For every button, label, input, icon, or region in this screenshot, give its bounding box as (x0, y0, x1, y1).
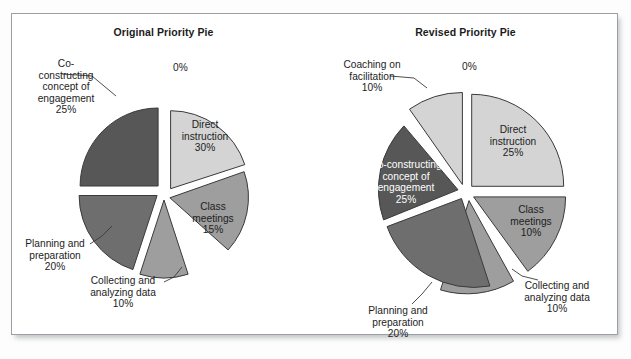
leader-line-planning (412, 282, 432, 304)
label-line: 10% (326, 82, 418, 94)
label-line: Collecting and (510, 280, 604, 292)
label-line: Planning and (354, 305, 442, 317)
label-line: 25% (22, 104, 110, 116)
label-line: analyzing data (78, 287, 168, 299)
zero-percent-label-original: 0% (173, 62, 188, 73)
label-line: instruction (476, 136, 550, 148)
label-line: preparation (354, 317, 442, 329)
figure-frame: Original Priority Pie (11, 13, 618, 335)
label-line: facilitation (326, 71, 418, 83)
label-line: 15% (182, 224, 244, 236)
label-line: Class (498, 204, 564, 216)
figure-root: Original Priority Pie (0, 0, 631, 359)
label-line: concept of (357, 171, 455, 183)
pie-label-coconstructing-original: Co- constructing concept of engagement 2… (22, 58, 110, 116)
pie-label-collecting-data-revised: Collecting and analyzing data 10% (510, 280, 604, 315)
chart-panel-revised: Revised Priority Pie (314, 14, 617, 334)
zero-percent-label-revised: 0% (462, 61, 477, 72)
label-line: 10% (510, 303, 604, 315)
label-line: engagement (357, 182, 455, 194)
pie-label-planning-original: Planning and preparation 20% (14, 238, 96, 273)
label-line: Co-constructing (357, 159, 455, 171)
leader-line-collecting (512, 269, 538, 280)
label-line: 30% (169, 142, 241, 154)
label-line: 25% (357, 194, 455, 206)
label-line: 10% (498, 227, 564, 239)
label-line: 20% (354, 328, 442, 340)
label-line: 25% (476, 147, 550, 159)
label-line: preparation (14, 250, 96, 262)
pie-label-collecting-data-original: Collecting and analyzing data 10% (78, 275, 168, 310)
label-line: 20% (14, 261, 96, 273)
pie-label-direct-instruction-original: Direct instruction 30% (169, 119, 241, 154)
label-line: Class (182, 201, 244, 213)
label-line: instruction (169, 131, 241, 143)
pie-label-direct-instruction-revised: Direct instruction 25% (476, 124, 550, 159)
pie-label-planning-revised: Planning and preparation 20% (354, 305, 442, 340)
pie-label-class-meetings-original: Class meetings 15% (182, 201, 244, 236)
label-line: meetings (182, 213, 244, 225)
label-line: meetings (498, 216, 564, 228)
label-line: concept of (22, 81, 110, 93)
label-line: 10% (78, 298, 168, 310)
pie-label-class-meetings-revised: Class meetings 10% (498, 204, 564, 239)
label-line: analyzing data (510, 292, 604, 304)
label-line: Direct (169, 119, 241, 131)
label-line: Planning and (14, 238, 96, 250)
label-line: Coaching on (326, 59, 418, 71)
label-line: constructing (22, 70, 110, 82)
pie-label-coconstructing-revised: Co-constructing concept of engagement 25… (357, 159, 455, 205)
chart-panel-original: Original Priority Pie (12, 14, 315, 334)
label-line: Collecting and (78, 275, 168, 287)
pie-slice-coconstructing (80, 108, 158, 186)
label-line: Co- (22, 58, 110, 70)
label-line: engagement (22, 93, 110, 105)
pie-label-coaching-facilitation-revised: Coaching on facilitation 10% (326, 59, 418, 94)
label-line: Direct (476, 124, 550, 136)
